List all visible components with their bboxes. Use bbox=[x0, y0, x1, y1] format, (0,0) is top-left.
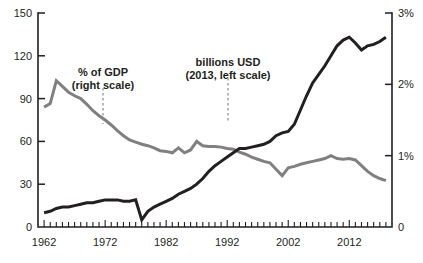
left-axis-tick-label: 30 bbox=[20, 178, 32, 190]
x-axis-tick-label: 1992 bbox=[215, 236, 239, 248]
left-axis-tick-label: 0 bbox=[26, 221, 32, 233]
gdp-annotation-line1: % of GDP bbox=[78, 66, 128, 78]
x-axis-tick-label: 1962 bbox=[32, 236, 56, 248]
usd-annotation-line1: billions USD bbox=[196, 56, 261, 68]
left-axis-tick-label: 150 bbox=[14, 7, 32, 19]
left-axis-tick-label: 90 bbox=[20, 93, 32, 105]
right-axis-tick-label: 3% bbox=[398, 7, 414, 19]
chart-container: 030609012015001%2%3%19621972198219922002… bbox=[0, 0, 423, 263]
line-chart: 030609012015001%2%3%19621972198219922002… bbox=[0, 0, 423, 263]
x-axis-tick-label: 2002 bbox=[276, 236, 300, 248]
right-axis-tick-label: 2% bbox=[398, 78, 414, 90]
x-axis-tick-label: 1972 bbox=[93, 236, 117, 248]
left-axis-tick-label: 60 bbox=[20, 135, 32, 147]
left-axis-tick-label: 120 bbox=[14, 50, 32, 62]
right-axis-tick-label: 1% bbox=[398, 150, 414, 162]
x-axis-tick-label: 1982 bbox=[154, 236, 178, 248]
chart-annotations: % of GDP(right scale)billions USD(2013, … bbox=[72, 56, 271, 124]
right-axis-tick-label: 0 bbox=[398, 221, 404, 233]
x-axis-tick-label: 2012 bbox=[337, 236, 361, 248]
